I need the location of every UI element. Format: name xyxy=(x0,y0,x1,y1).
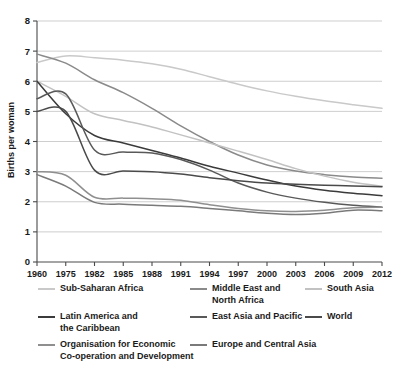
x-tick-label-2000: 2000 xyxy=(257,269,277,279)
legend-item-oecd[interactable]: Organisation for Economic Co-operation a… xyxy=(38,339,194,362)
x-tick-label-1982: 1982 xyxy=(84,269,104,279)
legend-row-3-col2: Europe and Central Asia xyxy=(190,339,316,351)
y-tick-label-3: 3 xyxy=(25,166,30,177)
x-tick-label-1997: 1997 xyxy=(228,269,248,279)
legend-swatch-middle-east-and-north-africa xyxy=(190,288,207,290)
series-line-east-asia-and-pacific xyxy=(37,91,382,207)
y-tick-label-1: 1 xyxy=(25,226,31,237)
legend-label-sub-saharan-africa: Sub-Saharan Africa xyxy=(60,283,143,295)
y-tick-label-4: 4 xyxy=(25,136,31,147)
legend-label-south-asia: South Asia xyxy=(327,283,374,295)
axes xyxy=(33,21,382,266)
x-tick-label-1960: 1960 xyxy=(27,269,47,279)
x-axis-tick-labels: 1960197519821985198819911994199720002003… xyxy=(27,269,392,279)
x-tick-label-2003: 2003 xyxy=(286,269,306,279)
legend-label-oecd: Organisation for Economic Co-operation a… xyxy=(60,339,194,362)
legend-swatch-europe-and-central-asia xyxy=(190,344,207,346)
x-tick-label-2009: 2009 xyxy=(343,269,363,279)
series-line-latin-america-and-the-caribbean xyxy=(37,81,382,195)
legend-row-3: Organisation for Economic Co-operation a… xyxy=(38,339,194,362)
legend-label-europe-and-central-asia: Europe and Central Asia xyxy=(212,339,316,351)
y-tick-label-5: 5 xyxy=(25,106,31,117)
chart-page: 012345678 196019751982198519881991199419… xyxy=(0,0,398,371)
legend-row-2-col2: East Asia and Pacific xyxy=(190,311,302,323)
legend-item-latin-america-and-the-caribbean[interactable]: Latin America and the Caribbean xyxy=(38,311,138,334)
series-line-sub-saharan-africa xyxy=(37,56,382,109)
legend-swatch-sub-saharan-africa xyxy=(38,288,55,290)
x-tick-label-1988: 1988 xyxy=(142,269,162,279)
x-tick-label-1975: 1975 xyxy=(56,269,76,279)
legend-row-1: Sub-Saharan Africa xyxy=(38,283,143,295)
legend-row-2-col3: World xyxy=(305,311,352,323)
legend-item-middle-east-and-north-africa[interactable]: Middle East and North Africa xyxy=(190,283,281,306)
legend-label-middle-east-and-north-africa: Middle East and North Africa xyxy=(212,283,281,306)
y-axis-tick-labels: 012345678 xyxy=(25,15,31,267)
y-tick-label-0: 0 xyxy=(25,256,30,267)
x-tick-label-2006: 2006 xyxy=(314,269,334,279)
fertility-rate-line-chart: 012345678 196019751982198519881991199419… xyxy=(0,0,398,280)
y-tick-label-8: 8 xyxy=(25,15,30,26)
legend-item-south-asia[interactable]: South Asia xyxy=(305,283,374,295)
chart-legend: Sub-Saharan Africa Middle East and North… xyxy=(0,279,398,371)
y-tick-label-2: 2 xyxy=(25,196,30,207)
legend-item-world[interactable]: World xyxy=(305,311,352,323)
legend-label-latin-america-and-the-caribbean: Latin America and the Caribbean xyxy=(60,311,138,334)
x-tick-label-1994: 1994 xyxy=(199,269,219,279)
legend-swatch-east-asia-and-pacific xyxy=(190,316,207,318)
y-tick-label-7: 7 xyxy=(25,46,30,57)
x-tick-label-1991: 1991 xyxy=(171,269,191,279)
legend-swatch-south-asia xyxy=(305,288,322,290)
legend-row-2: Latin America and the Caribbean xyxy=(38,311,138,334)
legend-item-east-asia-and-pacific[interactable]: East Asia and Pacific xyxy=(190,311,302,323)
chart-canvas: 012345678 196019751982198519881991199419… xyxy=(0,0,398,280)
legend-row-1-col3: South Asia xyxy=(305,283,374,295)
legend-item-sub-saharan-africa[interactable]: Sub-Saharan Africa xyxy=(38,283,143,295)
legend-label-east-asia-and-pacific: East Asia and Pacific xyxy=(212,311,302,323)
legend-label-world: World xyxy=(327,311,352,323)
legend-item-europe-and-central-asia[interactable]: Europe and Central Asia xyxy=(190,339,316,351)
legend-row-1-col2: Middle East and North Africa xyxy=(190,283,281,306)
x-tick-label-1985: 1985 xyxy=(113,269,133,279)
legend-swatch-oecd xyxy=(38,344,55,346)
legend-swatch-latin-america-and-the-caribbean xyxy=(38,316,55,318)
data-series-group xyxy=(37,54,382,214)
legend-swatch-world xyxy=(305,316,322,318)
x-tick-label-2012: 2012 xyxy=(372,269,392,279)
y-axis-title: Births per woman xyxy=(6,102,16,178)
y-tick-label-6: 6 xyxy=(25,76,30,87)
